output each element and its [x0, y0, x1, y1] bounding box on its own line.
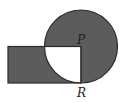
point-label-r: R	[76, 86, 86, 100]
geometry-figure: P R	[0, 0, 128, 102]
point-label-p: P	[76, 33, 86, 47]
